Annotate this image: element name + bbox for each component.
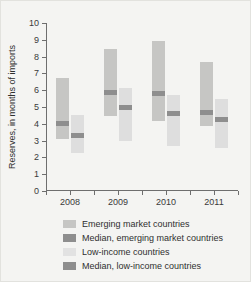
legend-label: Median, low-income countries: [82, 261, 201, 271]
bar-emerging-range: [56, 78, 69, 138]
x-tick-inner: [214, 191, 215, 195]
y-tick: [42, 107, 46, 108]
legend-label: Low-income countries: [82, 247, 170, 257]
x-tick-label: 2011: [204, 197, 223, 207]
legend-swatch-icon: [63, 248, 76, 256]
x-tick-label: 2009: [108, 197, 128, 207]
y-tick-label: 4: [34, 119, 39, 129]
x-tick: [46, 191, 47, 195]
y-tick: [42, 23, 46, 24]
x-tick: [238, 191, 239, 195]
y-tick-label: 5: [34, 102, 39, 112]
x-tick: [94, 191, 95, 195]
y-axis-title-label: Reserves, in months of imports: [7, 45, 17, 169]
y-tick-label: 2: [34, 152, 39, 162]
legend-swatch-icon: [63, 262, 76, 270]
x-tick-label: 2010: [156, 197, 176, 207]
y-tick: [42, 157, 46, 158]
y-tick: [42, 141, 46, 142]
legend-label: Median, emerging market countries: [82, 233, 223, 243]
bar-lowincome-range: [167, 95, 180, 146]
bar-emerging-range: [152, 41, 165, 121]
plot-area: 012345678910 2008200920102011: [46, 23, 238, 191]
legend-item: Median, low-income countries: [63, 259, 223, 272]
y-tick-label: 7: [34, 68, 39, 78]
y-tick-label: 1: [34, 169, 39, 179]
x-tick-inner: [70, 191, 71, 195]
y-tick-label: 9: [34, 35, 39, 45]
x-tick-inner: [166, 191, 167, 195]
y-tick-label: 10: [29, 18, 39, 28]
median-emerging: [152, 91, 165, 96]
legend-swatch-icon: [63, 220, 76, 228]
x-tick: [190, 191, 191, 195]
x-tick-label: 2008: [60, 197, 80, 207]
y-tick-label: 8: [34, 52, 39, 62]
y-tick-label: 3: [34, 136, 39, 146]
y-tick: [42, 40, 46, 41]
median-lowincome: [119, 105, 132, 110]
y-tick: [42, 73, 46, 74]
y-tick: [42, 124, 46, 125]
bar-lowincome-range: [119, 88, 132, 141]
y-tick: [42, 90, 46, 91]
median-lowincome: [167, 111, 180, 116]
bar-emerging-range: [200, 62, 213, 127]
legend-item: Low-income countries: [63, 245, 223, 258]
median-lowincome: [215, 117, 228, 122]
x-tick-inner: [118, 191, 119, 195]
median-emerging: [200, 110, 213, 115]
bar-lowincome-range: [215, 99, 228, 149]
x-tick: [142, 191, 143, 195]
y-tick-label: 0: [34, 186, 39, 196]
chart-figure: Reserves, in months of imports 012345678…: [0, 0, 251, 282]
bar-emerging-range: [104, 49, 117, 116]
y-axis-title: Reserves, in months of imports: [5, 23, 19, 191]
legend-swatch-icon: [63, 234, 76, 242]
legend-label: Emerging market countries: [82, 219, 190, 229]
legend-item: Median, emerging market countries: [63, 231, 223, 244]
median-emerging: [56, 121, 69, 126]
y-tick: [42, 57, 46, 58]
legend-item: Emerging market countries: [63, 217, 223, 230]
y-axis-line: [46, 23, 47, 191]
chart-legend: Emerging market countriesMedian, emergin…: [63, 217, 223, 272]
median-lowincome: [71, 133, 84, 138]
y-tick: [42, 174, 46, 175]
y-tick-label: 6: [34, 85, 39, 95]
median-emerging: [104, 90, 117, 95]
